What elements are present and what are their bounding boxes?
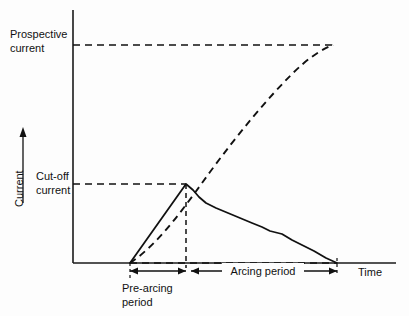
right-arrowhead-icon	[178, 268, 186, 275]
prospective-current-label-line1: Prospective	[10, 28, 67, 40]
chart-canvas: Current Prospective current Cut-off curr…	[0, 0, 409, 316]
pre-arcing-period-label-line1: Pre-arcing	[122, 282, 173, 294]
current-time-diagram: Current Prospective current Cut-off curr…	[0, 0, 409, 316]
cut-off-current-curve	[130, 184, 337, 263]
cut-off-current-label-line1: Cut-off	[36, 170, 70, 182]
up-arrow-icon	[20, 127, 27, 137]
pre-arcing-period-label-line2: period	[122, 296, 153, 308]
arcing-period-label: Arcing period	[231, 265, 296, 277]
prospective-current-label-line2: current	[10, 42, 44, 54]
cut-off-current-label-line2: current	[36, 184, 70, 196]
y-axis-label: Current	[13, 170, 25, 207]
left-arrowhead-icon	[191, 268, 199, 275]
x-axis-label: Time	[358, 266, 382, 278]
prospective-current-curve	[130, 45, 333, 263]
left-arrowhead-icon	[130, 268, 138, 275]
right-arrowhead-icon	[329, 268, 337, 275]
